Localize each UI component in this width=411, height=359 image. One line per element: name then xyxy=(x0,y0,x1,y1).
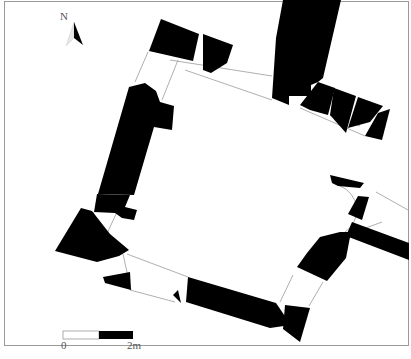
floor-plan: N xyxy=(0,0,411,359)
north-label: N xyxy=(60,10,68,22)
walls xyxy=(55,0,409,342)
scale-start-label: 0 xyxy=(61,339,67,351)
scale-end-label: 2m xyxy=(127,339,142,351)
north-arrow-icon xyxy=(66,22,83,46)
scale-bar xyxy=(63,331,133,339)
